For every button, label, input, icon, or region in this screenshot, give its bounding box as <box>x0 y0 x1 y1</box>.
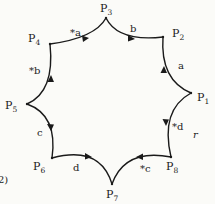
vertex-p8 <box>170 156 172 158</box>
vertex-label-p2: P2 <box>172 27 184 42</box>
edge-label-p6-p7: d <box>73 162 80 173</box>
stray-mark: r <box>193 129 199 140</box>
vertex-label-p4: P4 <box>28 32 40 47</box>
arrow-p4-p3-icon <box>82 36 89 43</box>
edge-label-p1-p2: a <box>178 60 184 71</box>
edge-p6-p7 <box>52 155 112 184</box>
edge-label-p4-p3: *a <box>70 27 81 38</box>
edge-label-p3-p2: b <box>130 23 136 34</box>
vertex-label-p5: P5 <box>5 99 17 114</box>
vertex-p2 <box>162 36 164 38</box>
vertex-p1 <box>190 92 192 94</box>
arrow-p1-p8-icon <box>163 119 170 126</box>
edge-p1-p2 <box>163 37 191 93</box>
vertex-label-p6: P6 <box>33 160 45 175</box>
octagon-diagram: P1 P2 P3 P4 P5 P6 P7 P8 *a b a *d *c d c… <box>0 0 215 204</box>
vertex-label-p3: P3 <box>100 2 112 17</box>
arrowheads <box>47 35 169 160</box>
vertex-p5 <box>26 103 28 105</box>
vertex-label-p8: P8 <box>166 160 178 175</box>
vertex-label-p7: P7 <box>106 188 118 203</box>
vertex-p6 <box>51 157 53 159</box>
vertex-label-p1: P1 <box>197 91 209 106</box>
edge-label-p5-p6: c <box>37 127 43 138</box>
figure-number-fragment: 2) <box>0 174 8 185</box>
arrow-p8-p7-icon <box>136 154 143 161</box>
arrow-p5-p6-icon <box>47 124 54 131</box>
edge-label-p1-p8: *d <box>172 121 184 132</box>
edge-label-p5-p4: *b <box>29 65 40 76</box>
vertex-p3 <box>105 17 107 19</box>
edge-label-p8-p7: *c <box>140 163 151 174</box>
vertex-p4 <box>49 43 51 45</box>
vertex-p7 <box>111 183 113 185</box>
